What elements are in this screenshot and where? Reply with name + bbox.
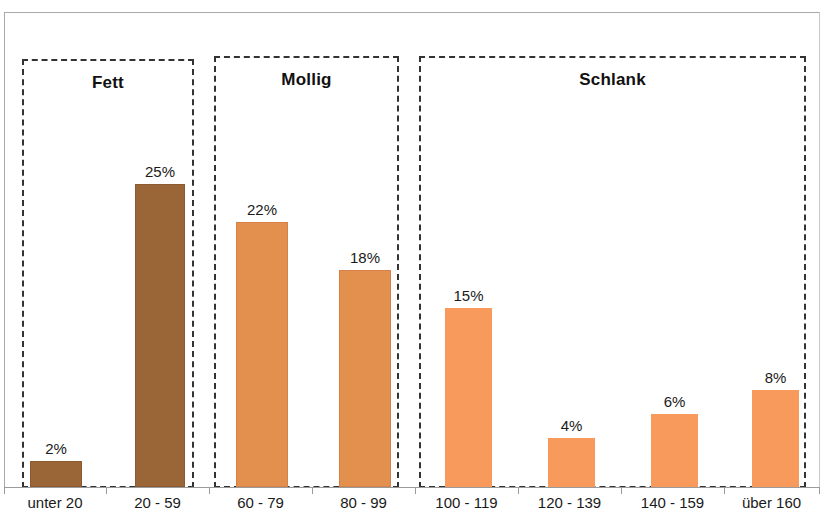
bar-60-79[interactable]: 22%	[236, 0, 288, 487]
bar-value-100-119: 15%	[453, 287, 483, 304]
x-axis-label-unter-20: unter 20	[4, 494, 106, 511]
bar-chart: Fett Mollig Schlank 2% 25% 22%	[0, 0, 822, 518]
x-axis-label-120-139: 120 - 139	[518, 494, 621, 511]
bar-rect-120-139	[548, 438, 595, 487]
x-axis-label-ueber-160: über 160	[724, 494, 819, 511]
bar-unter-20[interactable]: 2%	[30, 0, 82, 487]
bar-100-119[interactable]: 15%	[445, 0, 492, 487]
bar-rect-80-99	[339, 270, 391, 487]
x-axis-tick	[415, 487, 416, 494]
x-axis-label-80-99: 80 - 99	[312, 494, 415, 511]
x-axis-label-60-79: 60 - 79	[209, 494, 312, 511]
x-axis-label-140-159: 140 - 159	[621, 494, 724, 511]
bar-value-120-139: 4%	[561, 417, 583, 434]
bar-value-60-79: 22%	[247, 201, 277, 218]
x-axis-tick	[621, 487, 622, 494]
bar-140-159[interactable]: 6%	[651, 0, 698, 487]
bar-value-ueber-160: 8%	[765, 369, 787, 386]
x-axis-tick	[312, 487, 313, 494]
x-axis-tick	[4, 487, 5, 494]
bar-80-99[interactable]: 18%	[339, 0, 391, 487]
bar-rect-100-119	[445, 308, 492, 487]
bar-rect-ueber-160	[752, 390, 799, 487]
plot-area: Fett Mollig Schlank 2% 25% 22%	[0, 0, 822, 487]
x-axis-tick	[724, 487, 725, 494]
x-axis-tick	[819, 487, 820, 494]
bar-value-80-99: 18%	[350, 249, 380, 266]
bar-value-unter-20: 2%	[45, 440, 67, 457]
bar-rect-20-59	[135, 184, 185, 487]
bar-value-140-159: 6%	[664, 393, 686, 410]
bar-rect-140-159	[651, 414, 698, 487]
x-axis-label-100-119: 100 - 119	[415, 494, 518, 511]
bar-value-20-59: 25%	[145, 163, 175, 180]
x-axis-line	[4, 487, 820, 488]
bar-rect-60-79	[236, 222, 288, 487]
x-axis-label-20-59: 20 - 59	[106, 494, 209, 511]
x-axis-tick	[106, 487, 107, 494]
bar-rect-unter-20	[30, 461, 82, 487]
x-axis-tick	[518, 487, 519, 494]
bar-120-139[interactable]: 4%	[548, 0, 595, 487]
x-axis-tick	[209, 487, 210, 494]
bar-20-59[interactable]: 25%	[135, 0, 185, 487]
bar-ueber-160[interactable]: 8%	[752, 0, 799, 487]
